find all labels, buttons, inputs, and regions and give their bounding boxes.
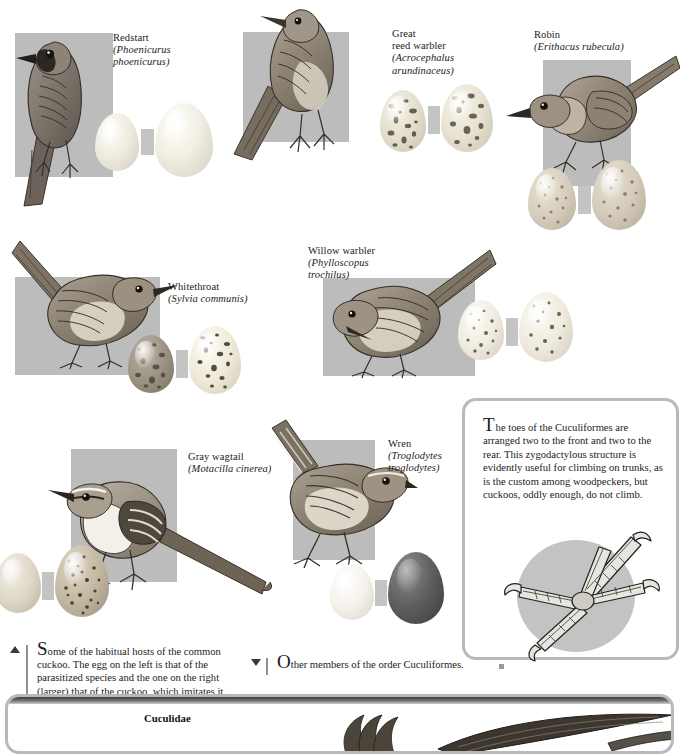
- caption-rule: [26, 645, 28, 698]
- species-common-name: Redstart: [113, 32, 223, 44]
- egg-cuckoo-great-reed-warbler: [441, 84, 493, 152]
- egg-connector-robin: [578, 186, 591, 214]
- cuculidae-panel: Cuculidae: [5, 694, 674, 754]
- species-common-name: Willow warbler: [308, 245, 438, 257]
- egg-cuckoo-robin: [592, 160, 646, 230]
- caption-willow-warbler: Willow warbler (Phylloscopus trochilus): [308, 245, 438, 282]
- figure-caption-left: Some of the habitual hosts of the common…: [26, 643, 251, 699]
- caption-redstart: Redstart (Phoenicurus phoenicurus): [113, 32, 223, 69]
- species-scientific-name-line2: trochilus): [308, 269, 438, 281]
- egg-host-wren: [330, 564, 374, 620]
- species-scientific-name-line2: arundinaceus): [392, 65, 512, 77]
- bird-illustration-great-reed-warbler: [228, 2, 368, 172]
- figure-caption-left-text: Some of the habitual hosts of the common…: [37, 643, 251, 698]
- species-scientific-name-line1: (Sylvia communis): [168, 293, 328, 305]
- egg-connector-whitethroat: [176, 350, 188, 378]
- species-scientific-name-line1: (Acrocephalus: [392, 52, 512, 64]
- bird-illustration-robin: [500, 38, 680, 178]
- egg-sheen: [337, 570, 357, 597]
- cuculidae-illustration: [8, 703, 674, 754]
- egg-cuckoo-redstart: [155, 103, 213, 177]
- egg-sheen: [164, 110, 191, 146]
- zygodactylous-foot-icon: [503, 527, 663, 657]
- species-common-name-line2: reed warbler: [392, 40, 512, 52]
- species-scientific-name-line1: (Phoenicurus: [113, 44, 223, 56]
- bird-illustration-redstart: [8, 20, 118, 210]
- egg-sheen: [102, 119, 122, 147]
- egg-sheen: [528, 299, 553, 333]
- caption-rule: [266, 658, 268, 675]
- egg-sheen: [2, 559, 23, 588]
- family-title-cuculidae: Cuculidae: [144, 712, 191, 724]
- species-common-name-line1: Great: [392, 28, 512, 40]
- species-scientific-name-line1: (Phylloscopus: [308, 257, 438, 269]
- caption-marker-down-triangle: [251, 659, 261, 666]
- figure-caption-right-text: Other members of the order Cuculiformes.: [277, 656, 496, 671]
- egg-sheen: [64, 552, 89, 587]
- egg-host-robin: [528, 168, 576, 230]
- egg-connector-wren: [375, 580, 387, 606]
- figure-caption-right: Other members of the order Cuculiformes.: [266, 656, 496, 676]
- egg-host-great-reed-warbler: [380, 90, 426, 152]
- species-common-name: Robin: [534, 29, 674, 41]
- end-marker-square: [499, 664, 504, 669]
- species-scientific-name-line2: phoenicurus): [113, 56, 223, 68]
- egg-cuckoo-wren: [388, 552, 444, 624]
- egg-host-redstart: [95, 113, 139, 171]
- species-scientific-name-line1: (Erithacus rubecula): [534, 41, 674, 53]
- egg-connector-willow-warbler: [506, 318, 518, 346]
- cuculiformes-info-text: The toes of the Cuculiformes are arrange…: [483, 418, 663, 501]
- caption-marker-up-triangle: [10, 646, 20, 653]
- egg-cuckoo-gray-wagtail: [55, 545, 109, 617]
- caption-great-reed-warbler: Great reed warbler (Acrocephalus arundin…: [392, 28, 512, 77]
- egg-sheen: [387, 96, 408, 126]
- egg-connector-great-reed-warbler: [428, 106, 440, 134]
- species-common-name: Whitethroat: [168, 281, 328, 293]
- egg-host-whitethroat: [128, 335, 174, 393]
- egg-sheen: [465, 306, 486, 335]
- egg-sheen: [536, 174, 558, 204]
- egg-connector-redstart: [141, 129, 154, 155]
- caption-robin: Robin (Erithacus rubecula): [534, 29, 674, 53]
- egg-cuckoo-whitethroat: [189, 326, 241, 394]
- egg-sheen: [397, 559, 423, 594]
- egg-connector-gray-wagtail: [42, 572, 54, 600]
- egg-cuckoo-willow-warbler: [519, 292, 573, 362]
- egg-host-gray-wagtail: [0, 553, 41, 613]
- egg-sheen: [601, 167, 626, 201]
- egg-sheen: [135, 341, 156, 369]
- caption-whitethroat: Whitethroat (Sylvia communis): [168, 281, 328, 305]
- egg-host-willow-warbler: [458, 300, 504, 360]
